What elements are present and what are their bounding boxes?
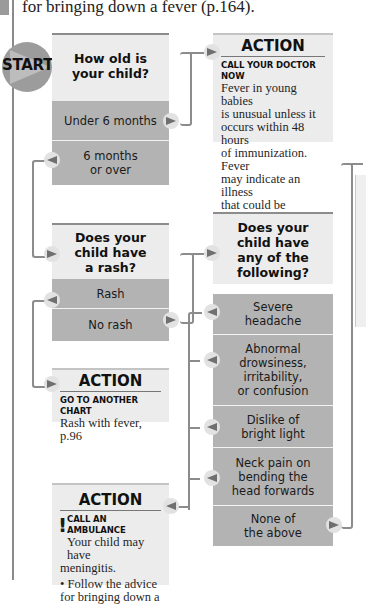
arrow-right-norash[interactable] bbox=[163, 312, 179, 328]
option-label: or confusion bbox=[238, 384, 309, 398]
connector-segment bbox=[351, 163, 363, 165]
arrow-left-neck-pain[interactable] bbox=[204, 470, 220, 486]
start-node: START bbox=[2, 42, 52, 92]
option-label: drowsiness, bbox=[239, 356, 306, 370]
action-caption: CALL YOUR DOCTOR NOW bbox=[213, 60, 333, 82]
chart-link[interactable]: Rash with fever, p.96 bbox=[60, 417, 161, 443]
arrow-right-icon bbox=[329, 521, 339, 529]
arrow-left-icon bbox=[207, 474, 217, 482]
connector-under6-to-action1 bbox=[180, 52, 192, 126]
option-neck-pain[interactable]: Neck pain on bending the head forwards bbox=[213, 448, 333, 506]
body-line: occurs within 48 hours bbox=[221, 121, 325, 147]
option-no-rash[interactable]: No rash bbox=[52, 309, 169, 341]
option-under-6-months[interactable]: Under 6 months bbox=[52, 101, 169, 141]
bullet-icon: • bbox=[60, 577, 64, 591]
intro-text: for bringing down a fever (p.164). bbox=[22, 0, 255, 17]
arrow-left-icon bbox=[47, 296, 57, 304]
option-label: bending the bbox=[238, 470, 307, 484]
arrow-left-icon bbox=[47, 156, 57, 164]
connector-bright-light bbox=[188, 427, 200, 429]
arrow-right-icon bbox=[207, 249, 217, 257]
question-age-title: How old is your child? bbox=[52, 35, 169, 81]
arrow-into-action2[interactable] bbox=[44, 376, 60, 392]
title-line: following? bbox=[213, 265, 333, 280]
arrow-right-icon bbox=[166, 117, 176, 125]
arrow-left-6months[interactable] bbox=[44, 152, 60, 168]
ambulance-block: ! CALL AN AMBULANCE Your child may have … bbox=[52, 514, 169, 604]
option-rash[interactable]: Rash bbox=[52, 279, 169, 309]
connector-rash-to-action2 bbox=[32, 300, 48, 388]
option-abnormal-drowsiness[interactable]: Abnormal drowsiness, irritability, or co… bbox=[213, 335, 333, 406]
option-label: 6 months bbox=[83, 149, 137, 163]
arrow-right-icon bbox=[166, 316, 176, 324]
question-age-options: Under 6 months 6 months or over bbox=[52, 101, 169, 185]
arrow-right-icon bbox=[47, 380, 57, 388]
divider bbox=[60, 391, 161, 392]
arrow-right-icon bbox=[47, 250, 57, 258]
body-line: meningitis. bbox=[52, 562, 169, 575]
option-label: headache bbox=[245, 314, 301, 328]
option-none-of-the-above[interactable]: None of the above bbox=[213, 506, 333, 546]
option-dislike-bright-light[interactable]: Dislike of bright light bbox=[213, 406, 333, 448]
option-label: Neck pain on bbox=[235, 456, 310, 470]
page-tab-marker bbox=[0, 0, 9, 15]
arrow-left-bright-light[interactable] bbox=[204, 419, 220, 435]
option-label: Severe bbox=[253, 300, 293, 314]
arrow-right-none[interactable] bbox=[326, 517, 342, 533]
connector-6months-to-q2 bbox=[32, 160, 48, 258]
title-line: a rash? bbox=[52, 260, 169, 275]
option-label: None of bbox=[251, 512, 296, 526]
divider bbox=[60, 510, 161, 511]
action-another-chart: ACTION GO TO ANOTHER CHART Rash with fev… bbox=[52, 368, 169, 422]
arrow-into-q3[interactable] bbox=[204, 245, 220, 261]
start-label: START bbox=[2, 56, 52, 74]
connector-segment bbox=[190, 52, 204, 54]
option-label: bright light bbox=[241, 427, 304, 441]
connector-symptoms-trunk bbox=[188, 312, 202, 510]
action-heading: ACTION bbox=[52, 485, 169, 509]
arrow-left-icon bbox=[207, 308, 217, 316]
connector-drowsiness bbox=[188, 360, 200, 362]
arrow-left-icon bbox=[207, 356, 217, 364]
action-body[interactable]: Rash with fever, p.96 bbox=[52, 417, 169, 443]
title-line: Does your bbox=[52, 230, 169, 245]
option-label: Rash bbox=[96, 287, 124, 301]
title-line: child have bbox=[52, 245, 169, 260]
body-line: for bringing down a bbox=[52, 591, 169, 604]
option-label: or over bbox=[90, 163, 131, 177]
arrow-into-q2[interactable] bbox=[44, 246, 60, 262]
option-label: the above bbox=[244, 526, 302, 540]
title-line: child have bbox=[213, 235, 333, 250]
arrow-left-headache[interactable] bbox=[204, 304, 220, 320]
warning-icon: ! bbox=[58, 514, 67, 536]
arrow-left-rash[interactable] bbox=[44, 292, 60, 308]
arrow-left-drowsiness[interactable] bbox=[204, 352, 220, 368]
arrow-right-under6[interactable] bbox=[163, 113, 179, 129]
title-line: How old is bbox=[52, 51, 169, 66]
option-6-months-or-over[interactable]: 6 months or over bbox=[52, 141, 169, 185]
action-caption: CALL AN AMBULANCE bbox=[52, 514, 169, 536]
body-line: Your child may have bbox=[52, 536, 169, 562]
body-line: of immunization. Fever bbox=[221, 147, 325, 173]
question-rash: Does your child have a rash? bbox=[52, 223, 169, 280]
action-heading: ACTION bbox=[52, 370, 169, 390]
arrow-into-action1[interactable] bbox=[204, 44, 220, 60]
offscreen-box-edge bbox=[355, 175, 366, 327]
arrow-right-icon bbox=[207, 48, 217, 56]
action-heading: ACTION bbox=[213, 35, 333, 55]
question-symptoms: Does your child have any of the followin… bbox=[213, 212, 333, 284]
connector-segment bbox=[192, 253, 204, 255]
divider bbox=[221, 56, 325, 57]
question-symptoms-title: Does your child have any of the followin… bbox=[213, 214, 333, 280]
body-line: Fever in young babies bbox=[221, 82, 325, 108]
question-rash-options: Rash No rash bbox=[52, 279, 169, 341]
option-label: Under 6 months bbox=[64, 114, 157, 128]
action-body: Fever in young babies is unusual unless … bbox=[213, 82, 333, 225]
option-severe-headache[interactable]: Severe headache bbox=[213, 294, 333, 335]
question-symptoms-options: Severe headache Abnormal drowsiness, irr… bbox=[213, 294, 333, 546]
connector-neck-pain bbox=[188, 478, 200, 480]
action-call-ambulance: ACTION ! CALL AN AMBULANCE Your child ma… bbox=[52, 483, 169, 585]
arrow-into-action3[interactable] bbox=[163, 498, 179, 514]
option-label: Abnormal bbox=[245, 342, 300, 356]
action-caption: GO TO ANOTHER CHART bbox=[52, 395, 169, 417]
